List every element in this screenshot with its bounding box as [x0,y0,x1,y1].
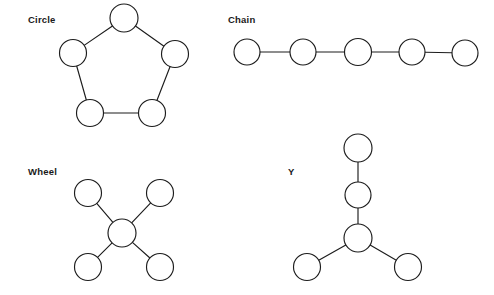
node-h3 [345,39,372,66]
node-w1 [75,180,102,207]
edge-w0-w1 [97,203,113,222]
node-c3 [139,100,166,127]
diagram-label-y: Y [288,166,295,177]
diagram-label-wheel: Wheel [28,166,57,177]
node-y5 [395,254,422,281]
node-y2 [345,182,371,208]
edge-y3-y5 [370,245,396,260]
node-c1 [110,4,138,32]
node-group [294,134,422,281]
edge-w0-w2 [132,203,151,223]
node-y1 [344,134,372,162]
edge-c5-c1 [84,26,112,45]
node-w2 [147,180,174,207]
network-diagram-y: Y [288,134,422,281]
diagram-label-chain: Chain [228,14,255,25]
node-group [75,180,174,281]
node-c2 [162,41,189,68]
diagram-canvas: CircleChainWheelY [0,0,494,295]
node-c4 [77,100,104,127]
edge-c1-c2 [135,26,164,46]
node-h4 [399,39,425,65]
network-diagram-circle: Circle [28,4,189,127]
edge-y3-y4 [319,245,346,260]
node-h5 [452,40,478,66]
edge-c2-c3 [157,67,170,101]
edge-w0-w4 [132,242,150,258]
node-y4 [294,254,321,281]
network-structures-figure: CircleChainWheelY [0,0,494,295]
network-diagram-wheel: Wheel [28,166,174,281]
diagram-label-circle: Circle [28,14,56,25]
node-h1 [234,39,260,65]
edge-h4-h5 [425,52,452,53]
node-group [60,4,189,127]
node-y3 [344,224,372,252]
node-c5 [60,40,87,67]
node-h2 [290,39,316,65]
node-w4 [147,254,174,281]
network-diagram-chain: Chain [228,14,478,66]
edge-w0-w3 [98,243,113,258]
edge-c4-c5 [77,66,87,100]
node-w3 [75,254,102,281]
node-w0 [108,219,136,247]
